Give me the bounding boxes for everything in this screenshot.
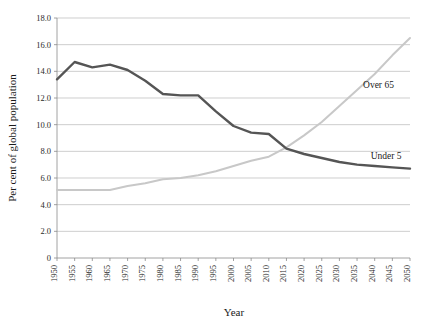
y-tick-label: 0	[47, 253, 51, 263]
y-tick-label: 4.0	[40, 200, 51, 210]
y-tick-label: 14.0	[36, 66, 51, 76]
y-tick-label: 6.0	[40, 173, 51, 183]
x-tick-label: 1960	[84, 265, 94, 282]
series-label-under-5: Under 5	[371, 151, 402, 161]
y-tick-label: 2.0	[40, 226, 51, 236]
x-tick-label: 2050	[402, 265, 412, 282]
x-tick-label: 2015	[278, 265, 288, 282]
x-tick-label: 1990	[190, 265, 200, 282]
axes	[57, 18, 410, 258]
series-line-under-5	[57, 62, 410, 169]
x-axis-tick-labels: 1950195519601965197019751980198519901995…	[49, 265, 412, 282]
chart-container: 02.04.06.08.010.012.014.016.018.0 195019…	[0, 0, 424, 323]
x-tick-label: 1955	[67, 265, 77, 282]
tick-marks	[54, 18, 410, 261]
x-tick-label: 1965	[102, 265, 112, 282]
x-tick-label: 2045	[384, 265, 394, 282]
x-tick-label: 1985	[173, 265, 183, 282]
x-tick-label: 1950	[49, 265, 59, 282]
y-axis-tick-labels: 02.04.06.08.010.012.014.016.018.0	[36, 13, 51, 263]
series-inline-labels: Over 65Under 5	[363, 80, 402, 161]
y-tick-label: 16.0	[36, 40, 51, 50]
x-tick-label: 2020	[296, 265, 306, 282]
x-tick-label: 2025	[314, 265, 324, 282]
x-tick-label: 2005	[243, 265, 253, 282]
line-chart: 02.04.06.08.010.012.014.016.018.0 195019…	[0, 0, 424, 323]
y-tick-label: 12.0	[36, 93, 51, 103]
x-tick-label: 2010	[261, 265, 271, 282]
y-tick-label: 10.0	[36, 120, 51, 130]
x-tick-label: 1975	[137, 265, 147, 282]
x-tick-label: 2030	[331, 265, 341, 282]
x-axis-title: Year	[224, 306, 245, 318]
x-tick-label: 1980	[155, 265, 165, 282]
y-axis-title: Per cent of global population	[6, 74, 18, 202]
x-tick-label: 2035	[349, 265, 359, 282]
y-tick-label: 18.0	[36, 13, 51, 23]
x-tick-label: 2040	[367, 265, 377, 282]
y-tick-label: 8.0	[40, 146, 51, 156]
x-tick-label: 1970	[120, 265, 130, 282]
data-series	[57, 38, 410, 190]
series-line-over-65	[57, 38, 410, 190]
x-tick-label: 2000	[226, 265, 236, 282]
x-tick-label: 1995	[208, 265, 218, 282]
series-label-over-65: Over 65	[363, 80, 394, 90]
